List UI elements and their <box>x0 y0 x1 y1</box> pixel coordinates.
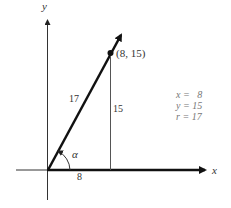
angle-arc <box>58 151 70 170</box>
y-value: y = 15 <box>175 100 202 111</box>
point-label: (8, 15) <box>116 47 146 60</box>
r-value: r = 17 <box>176 111 203 122</box>
x-axis-label: x <box>211 164 217 176</box>
hypotenuse-label: 17 <box>69 93 79 104</box>
point-marker <box>108 50 114 56</box>
y-axis-label: y <box>41 0 47 12</box>
angle-label: α <box>72 148 78 160</box>
x-value: x = 8 <box>175 89 202 100</box>
vertical-segment-label: 15 <box>113 103 123 114</box>
horizontal-segment-label: 8 <box>77 171 82 182</box>
coordinate-diagram: y x (8, 15) 17 15 8 α x = 8 y = 15 r = 1… <box>0 0 231 208</box>
